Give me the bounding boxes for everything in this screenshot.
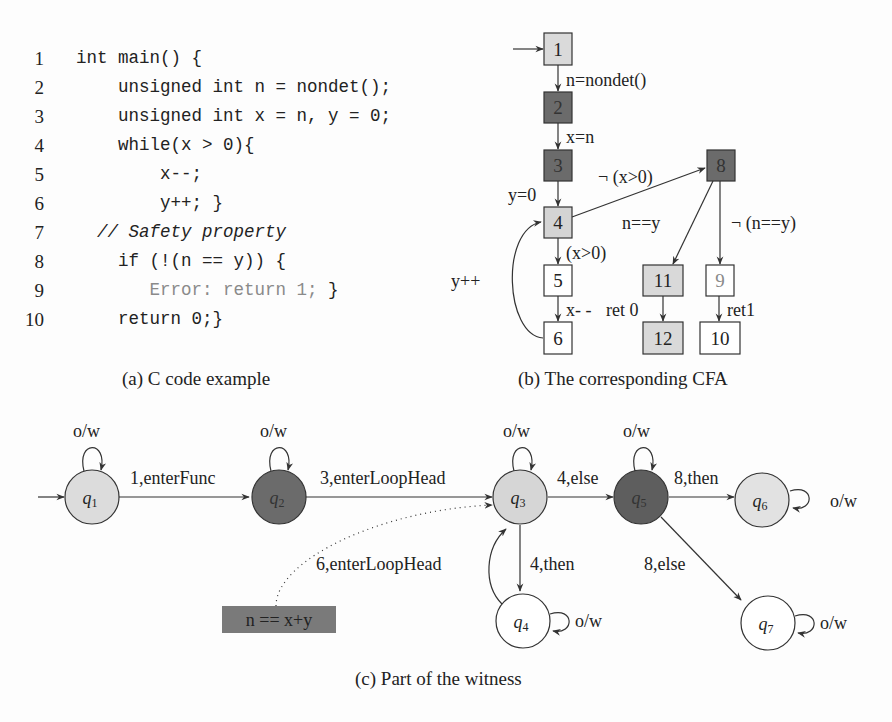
svg-text:11: 11: [654, 270, 672, 291]
svg-text:9: 9: [715, 270, 725, 291]
svg-text:ret1: ret1: [727, 300, 755, 320]
cfa-diagram: 1 2 3 4 5 6 8 11 9 12 10 n=nondet() x=n …: [0, 0, 892, 400]
svg-text:8,then: 8,then: [674, 468, 719, 488]
svg-text:¬ (x>0): ¬ (x>0): [598, 167, 653, 188]
svg-text:o/w: o/w: [503, 421, 530, 441]
svg-text:2: 2: [553, 97, 563, 118]
svg-text:10: 10: [711, 328, 730, 349]
svg-text:y++: y++: [451, 271, 480, 291]
svg-text:6: 6: [553, 328, 563, 349]
svg-text:1,enterFunc: 1,enterFunc: [130, 468, 215, 488]
svg-text:o/w: o/w: [73, 421, 100, 441]
witness-automaton: n == x+y q1 q2 q3 q4 q5 q6 q7 o/w o/w o/…: [0, 390, 892, 660]
svg-text:8,else: 8,else: [644, 554, 685, 574]
svg-text:o/w: o/w: [575, 611, 602, 631]
svg-text:3,enterLoopHead: 3,enterLoopHead: [320, 468, 445, 488]
svg-text:1: 1: [553, 39, 563, 60]
svg-text:o/w: o/w: [830, 491, 857, 511]
svg-text:12: 12: [654, 328, 673, 349]
svg-text:n==y: n==y: [622, 213, 660, 233]
svg-text:y=0: y=0: [508, 185, 536, 205]
svg-text:(x>0): (x>0): [566, 243, 606, 264]
svg-text:5: 5: [553, 270, 563, 291]
svg-text:ret 0: ret 0: [606, 300, 638, 320]
svg-text:4,then: 4,then: [530, 554, 575, 574]
svg-text:x- -: x- -: [566, 300, 592, 320]
svg-text:o/w: o/w: [623, 421, 650, 441]
svg-text:4: 4: [553, 212, 563, 233]
svg-text:o/w: o/w: [260, 421, 287, 441]
svg-text:8: 8: [716, 155, 726, 176]
svg-text:x=n: x=n: [566, 127, 594, 147]
svg-text:¬ (n==y): ¬ (n==y): [731, 213, 796, 234]
svg-text:n == x+y: n == x+y: [246, 610, 312, 630]
svg-text:4,else: 4,else: [557, 468, 598, 488]
svg-text:6,enterLoopHead: 6,enterLoopHead: [316, 554, 441, 574]
caption-witness: (c) Part of the witness: [355, 668, 522, 690]
svg-text:n=nondet(): n=nondet(): [566, 70, 646, 91]
svg-text:3: 3: [553, 155, 563, 176]
caption-cfa: (b) The corresponding CFA: [518, 368, 728, 390]
svg-text:o/w: o/w: [820, 613, 847, 633]
